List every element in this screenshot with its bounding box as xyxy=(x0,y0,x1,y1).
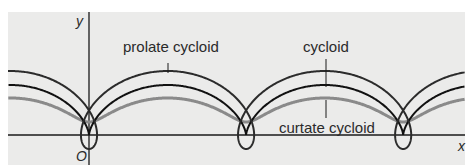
cycloid-figure xyxy=(0,0,472,165)
curtate-cycloid-label: curtate cycloid xyxy=(279,119,375,136)
cycloid-label: cycloid xyxy=(303,38,349,55)
prolate-cycloid-curve xyxy=(8,71,465,149)
x-axis-label: x xyxy=(458,138,465,154)
origin-label: O xyxy=(76,148,87,164)
prolate-cycloid-label: prolate cycloid xyxy=(123,38,219,55)
y-axis-label: y xyxy=(76,13,83,29)
